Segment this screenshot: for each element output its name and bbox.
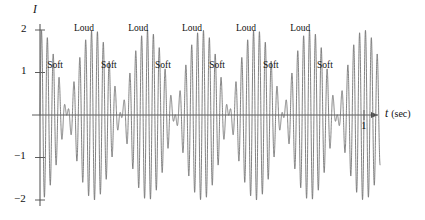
x-axis-unit: (sec) [391, 108, 410, 119]
annotation-loud-3: Loud [236, 24, 256, 34]
annotation-loud-2: Loud [182, 24, 202, 34]
y-tick-label-1: 1 [21, 65, 27, 76]
annotation-soft-7: Soft [155, 61, 171, 71]
annotation-soft-10: Soft [317, 61, 333, 71]
y-tick-label-minus-2: −2 [14, 193, 26, 204]
annotation-soft-6: Soft [101, 61, 117, 71]
x-axis-label: t(sec) [385, 108, 411, 120]
x-tick-label-1: 1 [361, 120, 367, 131]
annotation-soft-5: Soft [47, 61, 63, 71]
y-tick-label-2: 2 [21, 23, 27, 34]
y-tick-label-minus-1: −1 [14, 150, 26, 161]
x-axis-variable: t [385, 107, 388, 119]
annotation-soft-8: Soft [209, 61, 225, 71]
annotation-loud-1: Loud [128, 24, 148, 34]
beats-waveform-chart [0, 0, 425, 220]
annotation-loud-0: Loud [74, 24, 94, 34]
x-axis-arrowhead [371, 112, 378, 118]
annotation-loud-4: Loud [290, 24, 310, 34]
y-axis-label: I [33, 4, 37, 16]
annotation-soft-9: Soft [263, 61, 279, 71]
